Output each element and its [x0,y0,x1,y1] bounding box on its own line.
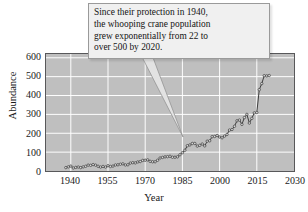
data-point [199,144,201,146]
whooping-crane-abundance-chart: 0100200300400500600 Abundance 1940195519… [0,0,308,212]
data-point [258,88,260,90]
data-point [174,156,176,158]
data-point [263,74,265,76]
data-point [67,166,69,168]
data-series-markers [65,74,271,169]
data-point [211,135,213,137]
data-point [70,165,72,167]
data-point [186,144,188,146]
data-point [201,143,203,145]
data-point [166,155,168,157]
data-point [236,120,238,122]
data-point [72,167,74,169]
data-point [149,160,151,162]
data-point [233,125,235,127]
data-point [256,111,258,113]
data-point [228,129,230,131]
data-point [141,159,143,161]
callout-line-2: the whooping crane population [94,19,264,31]
data-point [164,156,166,158]
data-point [268,74,270,76]
data-series-line [66,76,269,168]
data-point [191,142,193,144]
data-point [241,123,243,125]
data-point [84,165,86,167]
data-point [139,160,141,162]
x-tick-label: 1985 [173,176,193,186]
data-point [151,161,153,163]
x-tick-label: 1970 [135,176,155,186]
data-point [221,137,223,139]
data-point [184,149,186,151]
data-point [89,164,91,166]
data-point [122,163,124,165]
data-point [107,164,109,166]
data-point [97,165,99,167]
data-point [65,166,67,168]
data-point [94,164,96,166]
data-point [104,166,106,168]
data-point [218,136,220,138]
data-point [226,133,228,135]
data-point [102,165,104,167]
data-point [213,135,215,137]
x-axis-title: Year [0,192,308,203]
data-point [92,163,94,165]
data-point [129,162,131,164]
data-point [261,82,263,84]
data-point [196,145,198,147]
data-point [161,156,163,158]
data-point [248,122,250,124]
data-point [243,116,245,118]
data-point [171,156,173,158]
data-point [203,145,205,147]
data-point [114,164,116,166]
data-point [251,117,253,119]
data-point [154,161,156,163]
x-tick-label: 2030 [285,176,305,186]
data-point [179,154,181,156]
y-axis-title: Abundance [7,56,18,136]
data-point [146,159,148,161]
data-point [176,156,178,158]
x-tick-label: 1940 [60,176,80,186]
data-point [206,140,208,142]
x-tick-label: 2015 [248,176,268,186]
data-point [156,159,158,161]
data-point [79,166,81,168]
data-point [194,142,196,144]
data-point [231,128,233,130]
data-point [132,161,134,163]
data-point [87,164,89,166]
x-tick-label: 1955 [98,176,118,186]
data-point [265,75,267,77]
data-point [238,119,240,121]
data-point [169,155,171,157]
data-point [189,144,191,146]
data-point [127,164,129,166]
data-point [119,163,121,165]
data-point [144,159,146,161]
data-point [159,157,161,159]
y-tick-label: 100 [8,148,41,158]
data-point [99,166,101,168]
x-tick-label: 2000 [210,176,230,186]
data-point [82,166,84,168]
data-point [253,112,255,114]
x-axis-tick-labels: 1940195519701985200020152030 [0,176,308,190]
plot-area [45,53,295,172]
data-point [109,165,111,167]
data-point [181,151,183,153]
callout-line-1: Since their protection in 1940, [94,7,264,19]
data-point [216,134,218,136]
data-point [77,166,79,168]
data-point [223,135,225,137]
data-point [117,164,119,166]
data-point [124,164,126,166]
data-point [246,113,248,115]
annotation-callout: Since their protection in 1940, the whoo… [88,3,270,59]
plot-svg [46,54,294,171]
callout-line-3: grew exponentially from 22 to [94,31,264,43]
data-point [134,162,136,164]
data-point [137,161,139,163]
